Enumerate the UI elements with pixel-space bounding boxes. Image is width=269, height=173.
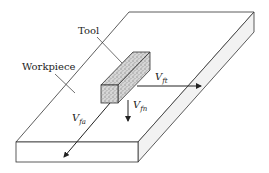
workpiece-label: Workpiece xyxy=(22,62,76,72)
force-label-fn: Vfn xyxy=(133,100,147,110)
slab-front-face xyxy=(16,142,138,162)
tool-front-face xyxy=(101,85,118,103)
force-label-ft: Vft xyxy=(155,72,168,82)
force-label-fa: Vfa xyxy=(72,113,86,123)
workpiece-slab xyxy=(16,12,254,162)
tool-label: Tool xyxy=(78,26,99,36)
diagram-canvas xyxy=(0,0,269,173)
